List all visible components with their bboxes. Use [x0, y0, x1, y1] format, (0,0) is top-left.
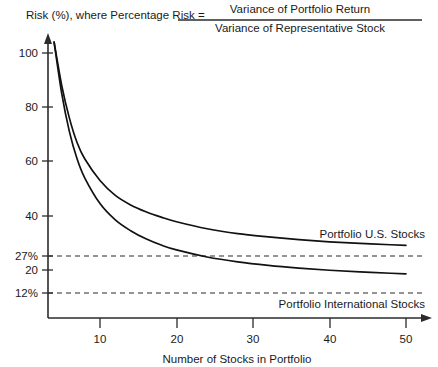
y-tick-label-12pct: 12% [15, 287, 38, 299]
chart-svg: Risk (%), where Percentage Risk = Varian… [0, 0, 438, 367]
chart-title-numerator: Variance of Portfolio Return [230, 3, 370, 15]
x-tick-label-40: 40 [324, 333, 337, 345]
x-axis-title: Number of Stocks in Portfolio [163, 353, 312, 365]
x-axis-arrowhead [421, 314, 432, 322]
x-tick-label-50: 50 [400, 333, 413, 345]
series-label-international-stocks: Portfolio International Stocks [279, 298, 426, 310]
y-tick-label-40: 40 [25, 210, 38, 222]
curve-portfolio-us-stocks [54, 42, 406, 245]
x-tick-label-20: 20 [171, 333, 184, 345]
y-tick-label-20: 20 [25, 264, 38, 276]
x-tick-label-30: 30 [247, 333, 260, 345]
risk-diversification-chart: Risk (%), where Percentage Risk = Varian… [0, 0, 438, 367]
x-tick-label-10: 10 [94, 333, 107, 345]
series-label-us-stocks: Portfolio U.S. Stocks [320, 228, 426, 240]
chart-title-lead: Risk (%), where Percentage Risk = [26, 9, 205, 21]
y-tick-label-27pct: 27% [15, 250, 38, 262]
y-axis-arrowhead [44, 33, 52, 44]
y-tick-label-60: 60 [25, 155, 38, 167]
chart-title-denominator: Variance of Representative Stock [215, 22, 385, 34]
y-tick-label-100: 100 [19, 47, 38, 59]
y-tick-label-80: 80 [25, 101, 38, 113]
